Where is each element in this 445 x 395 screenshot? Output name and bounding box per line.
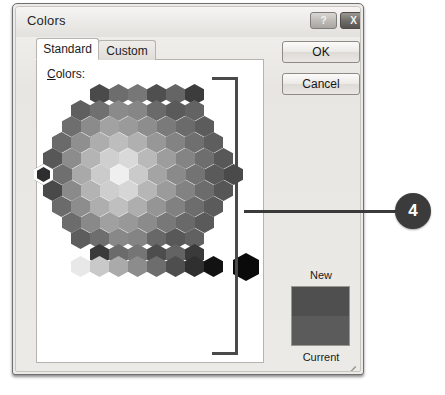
grayscale-hex[interactable]: [185, 256, 204, 277]
new-color-swatch: [292, 287, 349, 316]
tab-standard[interactable]: Standard: [36, 38, 99, 60]
colors-label-rest: olors:: [56, 67, 85, 81]
help-icon-glyph: ?: [320, 15, 326, 26]
colors-dialog-body: Colors ? X Custom Standard Colors:: [15, 6, 361, 372]
cancel-button-label: Cancel: [302, 77, 339, 91]
tab-custom[interactable]: Custom: [98, 40, 156, 60]
callout-badge-4: 4: [395, 193, 431, 229]
dialog-titlebar[interactable]: Colors ? X: [16, 7, 360, 37]
resize-grip[interactable]: [344, 356, 356, 368]
grayscale-hex[interactable]: [147, 256, 166, 277]
ok-button-label: OK: [312, 45, 329, 59]
dialog-title: Colors: [27, 13, 66, 28]
grayscale-hex[interactable]: [90, 256, 109, 277]
tab-standard-label: Standard: [43, 42, 92, 56]
cancel-button[interactable]: Cancel: [282, 73, 360, 95]
callout-leader-line: [244, 210, 402, 213]
tab-custom-label: Custom: [106, 44, 147, 58]
current-color-swatch: [292, 316, 349, 345]
color-preview-swatch: [291, 286, 350, 346]
grayscale-hex[interactable]: [71, 256, 90, 277]
close-icon[interactable]: X: [340, 12, 361, 29]
colors-label-accel: C: [47, 67, 56, 81]
grayscale-hex[interactable]: [109, 256, 128, 277]
close-icon-glyph: X: [350, 15, 357, 26]
ok-button[interactable]: OK: [282, 41, 360, 63]
colors-field-label: Colors:: [47, 67, 85, 81]
help-icon[interactable]: ?: [310, 12, 337, 29]
grayscale-hex[interactable]: [128, 256, 147, 277]
new-color-label: New: [282, 269, 360, 281]
callout-badge-number: 4: [408, 201, 417, 221]
grayscale-hex[interactable]: [166, 256, 185, 277]
annotation-bracket: [212, 77, 238, 355]
color-preview-panel: New Current: [282, 269, 360, 363]
colors-dialog: Colors ? X Custom Standard Colors:: [12, 3, 364, 375]
